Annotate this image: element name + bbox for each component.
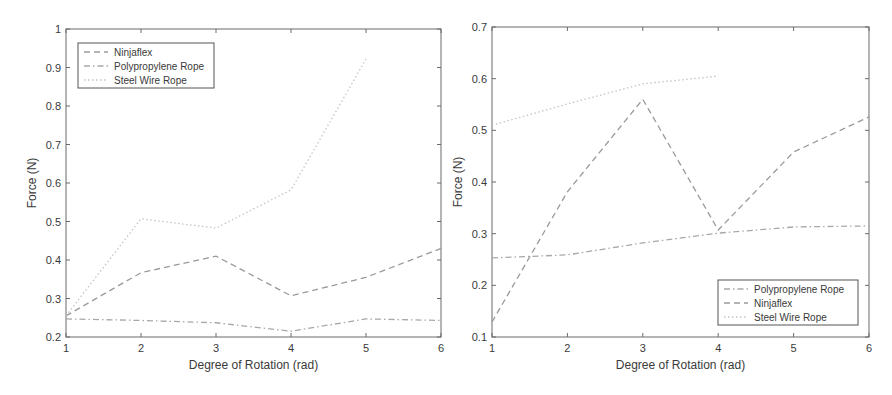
x-axis-label: Degree of Rotation (rad) bbox=[189, 358, 318, 372]
y-tick-label: 0.6 bbox=[472, 73, 487, 85]
chart-force-vs-rotation-left: 1234560.20.30.40.50.60.70.80.91Degree of… bbox=[0, 0, 446, 395]
legend-entry-label: Ninjaflex bbox=[754, 298, 792, 309]
x-tick-label: 1 bbox=[63, 342, 69, 354]
y-tick-label: 0.6 bbox=[46, 177, 61, 189]
legend-entry-label: Steel Wire Rope bbox=[114, 75, 187, 86]
legend-entry-label: Polypropylene Rope bbox=[754, 284, 844, 295]
chart-force-vs-rotation-right: 1234560.10.20.30.40.50.60.7Degree of Rot… bbox=[446, 0, 892, 395]
x-tick-label: 3 bbox=[213, 342, 219, 354]
y-tick-label: 0.8 bbox=[46, 100, 61, 112]
y-tick-label: 0.4 bbox=[46, 254, 61, 266]
legend-entry-label: Steel Wire Rope bbox=[754, 312, 827, 323]
x-tick-label: 2 bbox=[564, 342, 570, 354]
plot-area-right: 1234560.10.20.30.40.50.60.7Degree of Rot… bbox=[446, 0, 892, 395]
y-tick-label: 0.3 bbox=[472, 228, 487, 240]
y-tick-label: 0.7 bbox=[472, 21, 487, 33]
y-tick-label: 1 bbox=[55, 23, 61, 35]
y-tick-label: 0.9 bbox=[46, 62, 61, 74]
x-tick-label: 1 bbox=[489, 342, 495, 354]
y-axis-label: Force (N) bbox=[25, 158, 39, 209]
y-tick-label: 0.1 bbox=[472, 331, 487, 343]
legend: NinjaflexPolypropylene RopeSteel Wire Ro… bbox=[78, 43, 214, 88]
x-tick-label: 4 bbox=[288, 342, 294, 354]
x-axis-label: Degree of Rotation (rad) bbox=[616, 358, 745, 372]
y-tick-label: 0.5 bbox=[46, 216, 61, 228]
legend-entry-label: Ninjaflex bbox=[114, 47, 152, 58]
x-tick-label: 4 bbox=[715, 342, 721, 354]
x-tick-label: 6 bbox=[866, 342, 872, 354]
x-tick-label: 6 bbox=[438, 342, 444, 354]
legend-entry-label: Polypropylene Rope bbox=[114, 61, 204, 72]
y-tick-label: 0.4 bbox=[472, 176, 487, 188]
y-tick-label: 0.2 bbox=[46, 331, 61, 343]
plot-area-left: 1234560.20.30.40.50.60.70.80.91Degree of… bbox=[0, 0, 446, 395]
y-tick-label: 0.3 bbox=[46, 293, 61, 305]
y-axis-label: Force (N) bbox=[451, 157, 465, 208]
y-tick-label: 0.5 bbox=[472, 124, 487, 136]
legend: Polypropylene RopeNinjaflexSteel Wire Ro… bbox=[718, 280, 858, 325]
x-tick-label: 3 bbox=[640, 342, 646, 354]
y-tick-label: 0.2 bbox=[472, 279, 487, 291]
y-tick-label: 0.7 bbox=[46, 139, 61, 151]
x-tick-label: 2 bbox=[138, 342, 144, 354]
x-tick-label: 5 bbox=[363, 342, 369, 354]
x-tick-label: 5 bbox=[791, 342, 797, 354]
